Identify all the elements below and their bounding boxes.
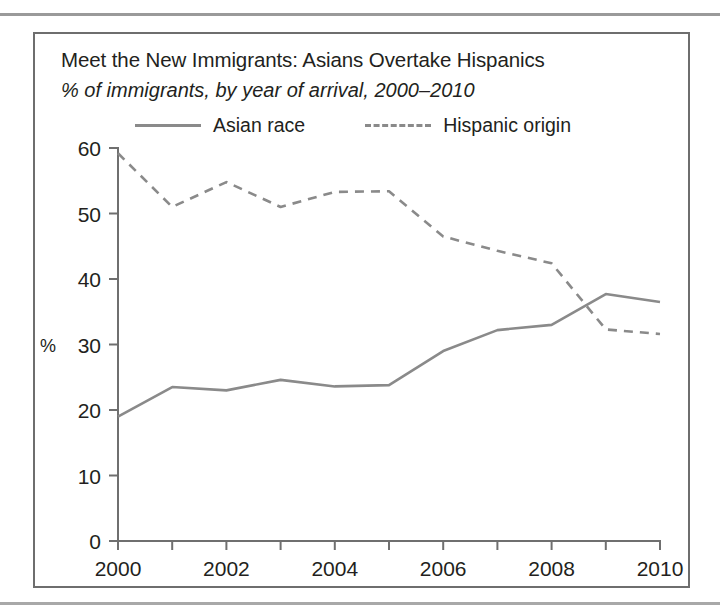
x-axis-tick-label: 2004 xyxy=(311,557,358,580)
y-axis-tick-label: 30 xyxy=(78,334,101,357)
y-axis-tick-label: 10 xyxy=(78,465,101,488)
bottom-divider-rule xyxy=(0,602,720,605)
x-axis-tick-label: 2010 xyxy=(637,557,684,580)
x-axis: 200020022004200620082010 xyxy=(95,541,684,580)
y-axis-tick-label: 60 xyxy=(78,137,101,160)
y-axis-unit-label: % xyxy=(40,336,56,356)
y-axis: 0102030405060 xyxy=(78,137,118,553)
x-axis-tick-label: 2006 xyxy=(420,557,467,580)
y-axis-tick-label: 40 xyxy=(78,268,101,291)
page-canvas: Meet the New Immigrants: Asians Overtake… xyxy=(0,0,720,614)
x-axis-tick-label: 2002 xyxy=(203,557,250,580)
series-line-asian-race xyxy=(118,294,660,416)
y-axis-tick-label: 50 xyxy=(78,203,101,226)
data-series-group xyxy=(118,153,660,416)
y-axis-tick-label: 20 xyxy=(78,399,101,422)
y-axis-tick-label: 0 xyxy=(89,530,101,553)
figure-container: Meet the New Immigrants: Asians Overtake… xyxy=(33,32,690,588)
top-divider-rule xyxy=(0,13,720,16)
series-line-hispanic-origin xyxy=(118,153,660,334)
chart-plot-area: 0102030405060 200020022004200620082010 % xyxy=(35,34,688,586)
x-axis-tick-label: 2008 xyxy=(528,557,575,580)
x-axis-tick-label: 2000 xyxy=(95,557,142,580)
